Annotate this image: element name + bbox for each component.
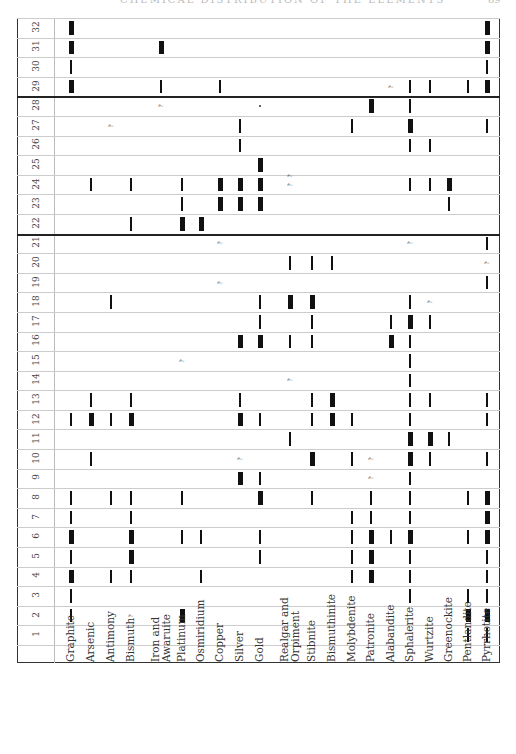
minor-occurrence-bar xyxy=(311,491,313,505)
row-number: 25 xyxy=(17,159,54,169)
row-divider xyxy=(17,586,500,587)
row-number: 7 xyxy=(17,512,54,522)
major-occurrence-bar xyxy=(218,178,223,192)
minor-occurrence-bar xyxy=(130,511,132,525)
minor-occurrence-bar xyxy=(110,295,112,309)
uncertain-mark: ? xyxy=(388,83,394,91)
row-divider xyxy=(17,292,500,293)
major-occurrence-bar xyxy=(485,491,490,505)
row-number: 12 xyxy=(17,414,54,424)
minor-occurrence-bar xyxy=(311,256,313,270)
minor-occurrence-bar xyxy=(259,315,261,329)
mineral-label: Pentlandite xyxy=(462,601,473,662)
minor-occurrence-bar xyxy=(409,178,411,192)
row-divider xyxy=(17,371,500,372)
major-occurrence-bar xyxy=(330,413,335,427)
minor-occurrence-bar xyxy=(311,393,313,407)
minor-occurrence-bar xyxy=(390,530,392,544)
uncertain-mark: ? xyxy=(484,259,490,267)
minor-occurrence-bar xyxy=(200,570,202,584)
row-divider xyxy=(17,155,500,156)
trace-dot xyxy=(259,105,261,107)
minor-occurrence-bar xyxy=(130,217,132,231)
minor-occurrence-bar xyxy=(130,570,132,584)
minor-occurrence-bar xyxy=(370,511,372,525)
minor-occurrence-bar xyxy=(409,511,411,525)
row-divider xyxy=(17,469,500,470)
minor-occurrence-bar xyxy=(486,237,488,251)
minor-occurrence-bar xyxy=(409,139,411,153)
mineral-label: Antimony xyxy=(105,611,116,662)
row-divider xyxy=(17,273,500,274)
section-divider xyxy=(17,234,500,236)
minor-occurrence-bar xyxy=(130,178,132,192)
minor-occurrence-bar xyxy=(90,452,92,466)
section-divider xyxy=(17,96,500,98)
minor-occurrence-bar xyxy=(409,550,411,564)
major-occurrence-bar xyxy=(485,80,490,94)
major-occurrence-bar xyxy=(89,413,94,427)
row-divider xyxy=(17,214,500,215)
minor-occurrence-bar xyxy=(429,393,431,407)
uncertain-mark: ? xyxy=(287,172,293,180)
row-number: 24 xyxy=(17,179,54,189)
minor-occurrence-bar xyxy=(110,491,112,505)
row-number: 28 xyxy=(17,100,54,110)
minor-occurrence-bar xyxy=(486,119,488,133)
row-divider xyxy=(17,38,500,39)
minor-occurrence-bar xyxy=(409,491,411,505)
row-divider xyxy=(17,567,500,568)
major-occurrence-bar xyxy=(485,511,490,525)
minor-occurrence-bar xyxy=(70,413,72,427)
minor-occurrence-bar xyxy=(90,178,92,192)
major-occurrence-bar xyxy=(408,119,413,133)
major-occurrence-bar xyxy=(258,335,263,349)
row-divider xyxy=(17,527,500,528)
major-occurrence-bar xyxy=(129,413,134,427)
minor-occurrence-bar xyxy=(110,570,112,584)
major-occurrence-bar xyxy=(485,530,490,544)
minor-occurrence-bar xyxy=(429,139,431,153)
row-divider xyxy=(17,488,500,489)
running-header: CHEMICAL DISTRIBUTION OF THE ELEMENTS xyxy=(120,0,420,5)
minor-occurrence-bar xyxy=(409,413,411,427)
minor-occurrence-bar xyxy=(409,393,411,407)
row-number: 3 xyxy=(17,590,54,600)
minor-occurrence-bar xyxy=(289,256,291,270)
row-divider xyxy=(17,253,500,254)
row-number: 31 xyxy=(17,41,54,51)
row-number: 19 xyxy=(17,277,54,287)
uncertain-mark: ? xyxy=(217,239,223,247)
major-occurrence-bar xyxy=(69,41,74,55)
row-divider xyxy=(17,606,500,607)
row-number: 32 xyxy=(17,22,54,32)
mineral-label: Awaruite xyxy=(161,614,172,662)
uncertain-mark: ? xyxy=(287,181,293,189)
major-occurrence-bar xyxy=(447,178,452,192)
row-divider xyxy=(17,508,500,509)
row-divider xyxy=(17,312,500,313)
row-number: 27 xyxy=(17,120,54,130)
minor-occurrence-bar xyxy=(160,80,162,94)
major-occurrence-bar xyxy=(129,550,134,564)
minor-occurrence-bar xyxy=(289,432,291,446)
minor-occurrence-bar xyxy=(239,139,241,153)
minor-occurrence-bar xyxy=(351,413,353,427)
mineral-label: Gold xyxy=(254,637,265,662)
row-divider xyxy=(17,332,500,333)
major-occurrence-bar xyxy=(408,315,413,329)
major-occurrence-bar xyxy=(330,393,335,407)
minor-occurrence-bar xyxy=(409,472,411,486)
uncertain-mark: ? xyxy=(407,239,413,247)
mineral-label: Alabandite xyxy=(385,605,396,662)
minor-occurrence-bar xyxy=(486,393,488,407)
major-occurrence-bar xyxy=(408,452,413,466)
minor-occurrence-bar xyxy=(390,315,392,329)
row-number: 14 xyxy=(17,374,54,384)
minor-occurrence-bar xyxy=(351,550,353,564)
uncertain-mark: ? xyxy=(179,357,185,365)
minor-occurrence-bar xyxy=(370,491,372,505)
major-occurrence-bar xyxy=(258,178,263,192)
minor-occurrence-bar xyxy=(486,550,488,564)
row-number: 11 xyxy=(17,433,54,443)
